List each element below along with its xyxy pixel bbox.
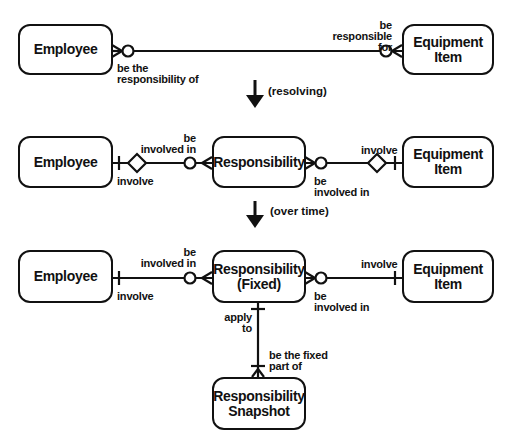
entity-equipment-item: Equipment Item	[402, 250, 494, 303]
role-label-involve: involve	[361, 259, 398, 270]
role-label-be-involved-in: be involved in	[140, 133, 196, 155]
relationship-employee-responsibility-row2	[112, 154, 212, 172]
arrow-down-icon-over-time	[246, 201, 264, 228]
relationship-responsibility-equipment-row2	[305, 154, 402, 172]
er-diagram-canvas: Employee Equipment Item be the responsib…	[0, 0, 510, 445]
role-label-be-involved-in: be involved in	[140, 247, 196, 269]
relationship-employee-responsibility-fixed-row3	[112, 271, 212, 285]
role-label-apply-to: apply to	[214, 312, 252, 334]
entity-equipment-item: Equipment Item	[402, 136, 494, 188]
entity-responsibility-snapshot: Responsibility Snapshot	[212, 377, 306, 430]
role-label-be-the-responsibility-of: be the responsibility of	[117, 63, 199, 85]
transition-label-over-time: (over time)	[270, 205, 329, 217]
entity-responsibility: Responsibility	[212, 136, 306, 188]
role-label-involve: involve	[117, 176, 154, 187]
role-label-involve: involve	[117, 291, 154, 302]
transition-label-resolving: (resolving)	[268, 85, 327, 97]
role-label-be-involved-in: be involved in	[314, 291, 369, 313]
arrow-down-icon-resolving	[246, 80, 264, 108]
entity-employee: Employee	[18, 24, 113, 75]
entity-employee: Employee	[18, 250, 113, 303]
relationship-responsibility-fixed-equipment-row3	[305, 271, 402, 285]
entity-equipment-item: Equipment Item	[402, 24, 494, 75]
entity-responsibility-fixed: Responsibility (Fixed)	[212, 250, 306, 303]
role-label-involve: involve	[361, 145, 398, 156]
relationship-responsibility-fixed-snapshot	[251, 302, 265, 377]
role-label-be-the-fixed-part-of: be the fixed part of	[269, 350, 328, 372]
entity-employee: Employee	[18, 136, 113, 188]
role-label-be-responsible-for: be responsible for	[326, 20, 392, 53]
role-label-be-involved-in: be involved in	[314, 176, 369, 198]
